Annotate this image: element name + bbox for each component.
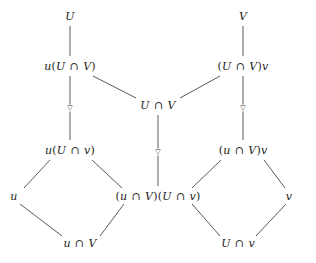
edge-uUv-to-u: [24, 160, 50, 188]
edge-v-to-UIv: [256, 204, 286, 236]
nabla-marker-icon-marker-left: ▽: [66, 105, 73, 112]
node-uVv: (u ∩ V)v: [219, 145, 268, 156]
node-uIV: u ∩ V: [63, 238, 96, 249]
edge-uUV-to-UV: [93, 76, 136, 98]
edge-u-to-uIV: [20, 204, 62, 236]
edge-center-to-UIv: [192, 204, 220, 236]
nabla-marker-icon-marker-center: ▽: [154, 149, 161, 156]
node-center: (u ∩ V)(U ∩ v): [116, 191, 201, 202]
edge-uVv-to-v: [264, 160, 285, 188]
diagram-edge-layer: [0, 0, 316, 263]
node-U: U: [65, 11, 74, 22]
edge-UVv-to-UV: [180, 76, 220, 98]
edge-center-to-uIV: [100, 204, 124, 236]
lattice-diagram: UVu(U ∩ V)(U ∩ V)vU ∩ Vu(U ∩ v)(u ∩ V)vu…: [0, 0, 316, 263]
node-u: u: [10, 191, 17, 202]
edge-uUv-to-center: [92, 160, 122, 188]
node-uUV: u(U ∩ V): [44, 61, 96, 72]
node-UVv: (U ∩ V)v: [218, 61, 269, 72]
edge-uVv-to-center: [192, 160, 221, 188]
node-uUv: u(U ∩ v): [45, 145, 95, 156]
nabla-marker-icon-marker-right: ▽: [239, 105, 246, 112]
node-UIv: U ∩ v: [221, 238, 255, 249]
node-UV: U ∩ V: [140, 100, 175, 111]
node-V: V: [239, 11, 247, 22]
node-v: v: [286, 191, 292, 202]
